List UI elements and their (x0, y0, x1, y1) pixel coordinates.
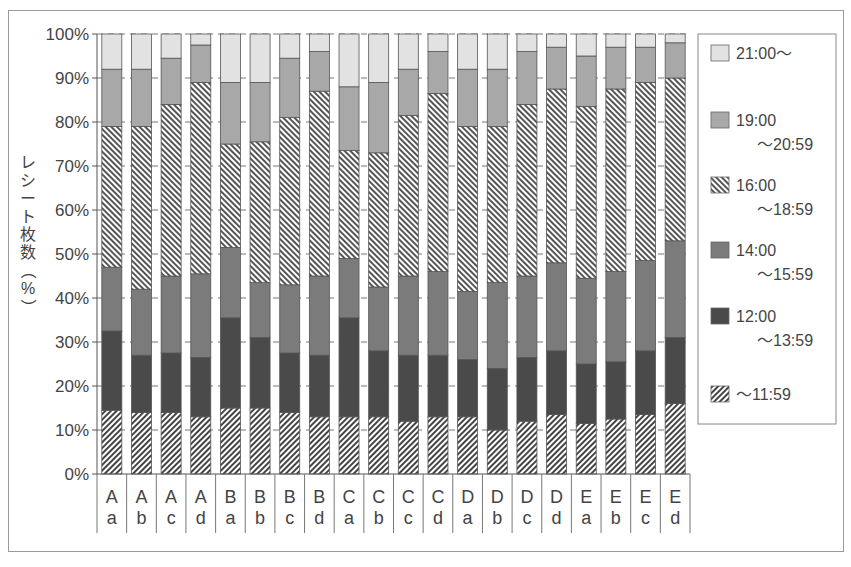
bar-segment (309, 417, 329, 474)
y-tick-label: 20% (55, 377, 89, 396)
bar-segment (547, 89, 567, 263)
bar-segment (398, 34, 418, 69)
y-axis-label-char: ー (20, 190, 36, 207)
x-category-top: A (165, 487, 177, 507)
x-category-bottom: c (641, 508, 650, 528)
x-category-bottom: d (314, 508, 324, 528)
bar-segment (220, 247, 240, 317)
x-category-top: D (520, 487, 533, 507)
bar-segment (161, 104, 181, 276)
x-category-top: A (106, 487, 118, 507)
bar-segment (636, 34, 656, 47)
x-category-bottom: c (285, 508, 294, 528)
legend-label: 16:00 (736, 177, 776, 194)
bar-segment (547, 47, 567, 89)
bar-Dc (517, 34, 537, 474)
y-axis-label-char: ） (20, 299, 37, 315)
bar-segment (250, 82, 270, 141)
y-axis-label-char: ト (20, 208, 36, 225)
bar-segment (487, 69, 507, 126)
stacked-bar-chart: 0%10%20%30%40%50%60%70%80%90%100% レシート枚数… (0, 0, 851, 567)
bar-Cd (428, 34, 448, 474)
bar-segment (576, 107, 596, 279)
bar-segment (606, 89, 626, 272)
y-tick-label: 90% (55, 69, 89, 88)
legend-label: 12:00 (736, 308, 776, 325)
bar-segment (339, 318, 359, 417)
bar-segment (665, 241, 685, 338)
bar-segment (309, 52, 329, 92)
bar-segment (131, 34, 151, 69)
bar-segment (517, 421, 537, 474)
bar-segment (665, 43, 685, 78)
bar-segment (636, 415, 656, 474)
bar-segment (280, 353, 300, 412)
y-axis-label-char: 数 (20, 244, 36, 261)
bar-segment (339, 151, 359, 259)
bar-segment (250, 142, 270, 283)
x-category-bottom: a (463, 508, 474, 528)
bar-segment (220, 144, 240, 247)
bar-Ab (131, 34, 151, 474)
x-category-bottom: a (344, 508, 355, 528)
bar-segment (339, 87, 359, 151)
x-category-bottom: c (404, 508, 413, 528)
bar-segment (576, 364, 596, 423)
bar-segment (458, 126, 478, 291)
bar-segment (636, 82, 656, 260)
bar-segment (369, 34, 389, 82)
bar-segment (428, 417, 448, 474)
x-category-top: C (372, 487, 385, 507)
bar-segment (428, 34, 448, 52)
x-category-bottom: c (522, 508, 531, 528)
bar-segment (517, 52, 537, 105)
bar-segment (428, 355, 448, 417)
bar-segment (428, 93, 448, 271)
legend-label: ～11:59 (736, 386, 791, 403)
legend-swatch (711, 386, 729, 402)
x-category-top: E (610, 487, 622, 507)
bar-Ed (665, 34, 685, 474)
bar-segment (576, 278, 596, 364)
legend-label-line2: ～18:59 (757, 201, 813, 218)
bar-segment (369, 351, 389, 417)
bar-segment (280, 34, 300, 58)
bar-segment (220, 82, 240, 144)
x-category-bottom: d (196, 508, 206, 528)
legend-label-line2: ～13:59 (757, 332, 813, 349)
legend-swatch (711, 45, 729, 61)
bar-segment (220, 408, 240, 474)
bar-segment (309, 276, 329, 355)
bar-segment (220, 318, 240, 408)
bar-Cc (398, 34, 418, 474)
bar-segment (517, 276, 537, 357)
y-tick-label: 60% (55, 201, 89, 220)
bar-segment (458, 69, 478, 126)
y-tick-label: 50% (55, 245, 89, 264)
x-category-bottom: c (167, 508, 176, 528)
bar-segment (428, 272, 448, 356)
y-tick-label: 40% (55, 289, 89, 308)
y-tick-label: 100% (46, 25, 89, 44)
bar-segment (161, 353, 181, 412)
bar-Eb (606, 34, 626, 474)
legend-label: 14:00 (736, 242, 776, 259)
x-category-bottom: d (670, 508, 680, 528)
x-category-bottom: b (136, 508, 146, 528)
y-tick-label: 30% (55, 333, 89, 352)
x-category-top: D (491, 487, 504, 507)
legend-swatch (711, 308, 729, 324)
bar-segment (161, 58, 181, 104)
bar-segment (369, 417, 389, 474)
y-axis-label: レシート枚数（%） (20, 154, 37, 315)
bar-segment (665, 34, 685, 43)
bar-segment (161, 412, 181, 474)
bar-segment (398, 355, 418, 421)
x-category-top: B (224, 487, 236, 507)
bar-segment (606, 272, 626, 362)
x-category-top: C (431, 487, 444, 507)
bar-segment (458, 417, 478, 474)
x-category-top: C (343, 487, 356, 507)
bar-segment (339, 34, 359, 87)
x-category-bottom: d (552, 508, 562, 528)
